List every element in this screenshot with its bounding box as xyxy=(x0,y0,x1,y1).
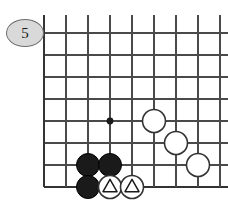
white-stone[interactable] xyxy=(143,110,166,133)
board-stones xyxy=(77,110,210,199)
go-diagram: 5 xyxy=(0,0,228,205)
stone-black-0[interactable] xyxy=(77,154,100,177)
stone-white-7[interactable] xyxy=(187,154,210,177)
stone-black-1[interactable] xyxy=(99,154,122,177)
stone-white-6[interactable] xyxy=(165,132,188,155)
stone-white-3[interactable] xyxy=(99,176,122,199)
move-number-badge: 5 xyxy=(6,19,44,47)
star-point-0 xyxy=(107,118,114,125)
stone-white-5[interactable] xyxy=(143,110,166,133)
board-star-points xyxy=(107,118,114,125)
black-stone[interactable] xyxy=(77,176,100,199)
stone-black-2[interactable] xyxy=(77,176,100,199)
white-stone[interactable] xyxy=(187,154,210,177)
move-number-text: 5 xyxy=(21,26,29,41)
stone-white-4[interactable] xyxy=(121,176,144,199)
black-stone[interactable] xyxy=(99,154,122,177)
black-stone[interactable] xyxy=(77,154,100,177)
white-stone[interactable] xyxy=(165,132,188,155)
